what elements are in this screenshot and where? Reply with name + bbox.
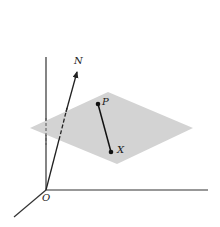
label-origin: O (42, 192, 50, 203)
plane-normal-diagram: N P X O (0, 0, 220, 227)
label-normal: N (73, 55, 84, 66)
point-p (96, 102, 101, 107)
label-point-x: X (116, 144, 125, 155)
point-x (109, 150, 114, 155)
label-point-p: P (101, 96, 109, 107)
normal-vector-upper (66, 72, 77, 112)
